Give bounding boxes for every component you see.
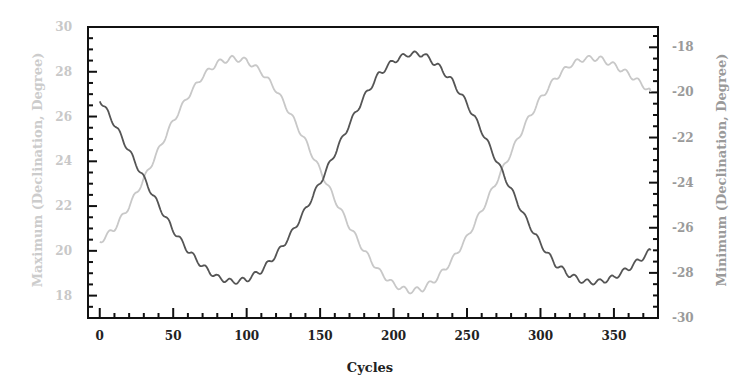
maximum-declination-line xyxy=(100,56,651,294)
left-tick-label: 28 xyxy=(55,65,72,79)
x-tick-label: 0 xyxy=(96,329,104,343)
left-tick-label: 30 xyxy=(55,20,72,34)
right-tick-label: -30 xyxy=(672,311,694,325)
left-tick-label: 22 xyxy=(55,199,72,213)
left-y-axis: 18202224262830 xyxy=(55,20,97,318)
left-tick-label: 26 xyxy=(55,110,72,124)
left-tick-label: 24 xyxy=(55,154,72,168)
left-tick-label: 20 xyxy=(55,244,72,258)
x-tick-label: 150 xyxy=(308,329,333,343)
right-tick-label: -24 xyxy=(672,176,694,190)
right-y-axis: -30-28-26-24-22-20-18 xyxy=(649,36,694,325)
left-tick-label: 18 xyxy=(55,289,72,303)
right-tick-label: -28 xyxy=(672,266,694,280)
right-tick-label: -20 xyxy=(672,85,694,99)
series-layer xyxy=(100,52,651,294)
left-y-axis-title: Maximum (Declination, Degree) xyxy=(30,53,45,288)
right-tick-label: -22 xyxy=(672,131,694,145)
x-tick-label: 350 xyxy=(601,329,626,343)
x-tick-label: 250 xyxy=(454,329,479,343)
x-axis: 050100150200250300350 xyxy=(96,308,644,343)
minimum-declination-line xyxy=(100,52,651,285)
x-tick-label: 100 xyxy=(234,329,259,343)
right-tick-label: -18 xyxy=(672,40,694,54)
declination-chart: 18202224262830 -30-28-26-24-22-20-18 050… xyxy=(0,0,750,391)
x-tick-label: 200 xyxy=(381,329,406,343)
x-axis-title: Cycles xyxy=(347,360,393,375)
right-y-axis-title: Minimum (Declination, Degree) xyxy=(714,54,729,287)
x-tick-label: 50 xyxy=(165,329,182,343)
right-tick-label: -26 xyxy=(672,221,694,235)
x-tick-label: 300 xyxy=(528,329,553,343)
